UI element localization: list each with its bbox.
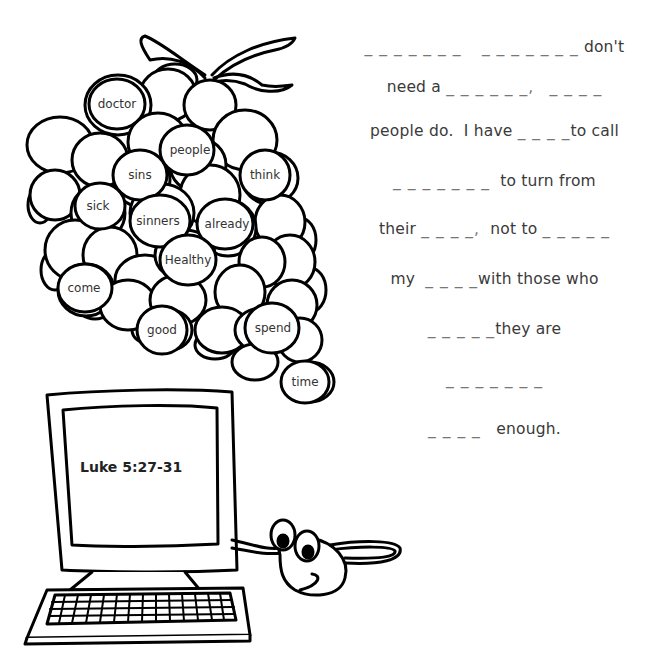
word-sick: sick — [86, 199, 109, 213]
line-text: not to — [480, 220, 542, 238]
blank[interactable]: _ _ _ _ — [550, 78, 603, 96]
blank[interactable]: _ _ _ _ _ _ _ — [393, 172, 490, 190]
puzzle-line-7: _ _ _ _ _they are — [318, 320, 671, 338]
line-text: my — [390, 270, 425, 288]
puzzle-line-9: _ _ _ _ enough. — [318, 420, 671, 438]
word-healthy: Healthy — [165, 253, 212, 267]
word-people: people — [170, 143, 211, 157]
puzzle-line-2: need a _ _ _ _ _ _, _ _ _ _ — [318, 78, 671, 96]
line-text: their — [379, 220, 421, 238]
puzzle-line-3: people do. I have _ _ _ _to call — [318, 122, 671, 140]
blank[interactable]: _ _ _ _ _ — [542, 220, 609, 238]
puzzle-line-8: _ _ _ _ _ _ _ — [318, 370, 671, 388]
gap — [461, 38, 482, 56]
blank[interactable]: _ _ _ _ _ _ _ — [446, 370, 543, 388]
puzzle-line-4: _ _ _ _ _ _ _ to turn from — [318, 172, 671, 190]
word-doctor: doctor — [98, 97, 137, 111]
keyboard-icon — [25, 588, 250, 644]
blank[interactable]: _ _ _ _ _ _, — [446, 78, 534, 96]
word-think: think — [250, 168, 280, 182]
word-good: good — [147, 323, 177, 337]
line-text: need a — [387, 78, 447, 96]
blank[interactable]: _ _ _ _ _ _ _ — [365, 38, 462, 56]
word-already: already — [205, 217, 250, 231]
line-text: enough. — [481, 420, 561, 438]
word-sins: sins — [128, 168, 151, 182]
scripture-reference: Luke 5:27-31 — [80, 459, 182, 475]
line-text: to turn from — [490, 172, 596, 190]
puzzle-line-1: _ _ _ _ _ _ _ _ _ _ _ _ _ _ don't — [318, 38, 671, 56]
line-text: with those who — [478, 270, 599, 288]
blank[interactable]: _ _ _ _ — [518, 122, 571, 140]
blank[interactable]: _ _ _ _ — [428, 420, 481, 438]
cartoon-mouse-icon — [271, 520, 346, 595]
line-text: to call — [570, 122, 619, 140]
computer-monitor-icon — [47, 390, 237, 590]
puzzle-line-5: their _ _ _ _, not to _ _ _ _ _ — [318, 220, 671, 238]
line-text: people do. I have — [370, 122, 518, 140]
word-sinners: sinners — [136, 214, 179, 228]
word-spend: spend — [255, 321, 291, 335]
blank[interactable]: _ _ _ _, — [421, 220, 480, 238]
word-come: come — [67, 281, 100, 295]
line-text: don't — [579, 38, 625, 56]
line-text: they are — [495, 320, 561, 338]
word-time: time — [291, 375, 318, 389]
puzzle-line-6: my _ _ _ _with those who — [318, 270, 671, 288]
blank[interactable]: _ _ _ _ _ — [428, 320, 495, 338]
gap — [534, 78, 549, 96]
blank[interactable]: _ _ _ _ _ _ _ — [482, 38, 579, 56]
blank[interactable]: _ _ _ _ — [425, 270, 478, 288]
